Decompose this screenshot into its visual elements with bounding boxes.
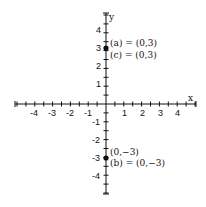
point-label-neg3: (0,−3) bbox=[110, 147, 139, 157]
point-0-3 bbox=[103, 45, 108, 50]
x-tick-label: 3 bbox=[158, 108, 163, 118]
x-tick-label: -4 bbox=[30, 108, 38, 118]
x-tick-label: -2 bbox=[66, 108, 74, 118]
y-tick-label: -4 bbox=[92, 171, 100, 181]
point-label-a: (a) = (0,3) bbox=[110, 38, 157, 48]
y-tick-label: 4 bbox=[96, 25, 101, 35]
x-axis-label: x bbox=[188, 93, 193, 103]
y-tick-label: -3 bbox=[92, 153, 100, 163]
y-tick-label: -2 bbox=[92, 135, 100, 145]
x-tick-label: 4 bbox=[175, 108, 180, 118]
x-tick-label: -1 bbox=[84, 108, 92, 118]
x-tick-label: 2 bbox=[140, 108, 145, 118]
point-label-b: (b) = (0,−3) bbox=[110, 158, 165, 168]
point-0-neg3 bbox=[103, 155, 108, 160]
y-tick-label: 3 bbox=[96, 43, 101, 53]
y-tick-label: -1 bbox=[92, 117, 100, 127]
y-tick-label: 1 bbox=[96, 79, 101, 89]
x-tick-label: -3 bbox=[48, 108, 56, 118]
x-tick-label: 1 bbox=[122, 108, 127, 118]
point-label-c: (c) = (0,3) bbox=[110, 50, 157, 60]
y-tick-label: 2 bbox=[96, 61, 101, 71]
coordinate-plane: x y -4 -3 -2 -1 1 2 3 4 4 3 2 1 -1 -2 -3… bbox=[0, 0, 206, 207]
y-axis-label: y bbox=[108, 12, 115, 22]
